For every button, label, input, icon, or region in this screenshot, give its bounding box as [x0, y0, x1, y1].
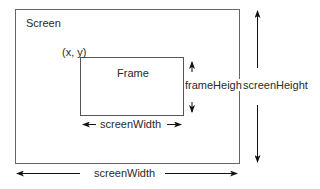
screen-label: Screen: [26, 17, 61, 29]
frame-origin-label: (x, y): [62, 46, 86, 58]
screen-height-label: screenHeight: [242, 79, 309, 91]
frame-width-label: screenWidth: [100, 118, 161, 130]
screen-width-label: screenWidth: [94, 167, 155, 179]
frame-height-label: frameHeight: [184, 79, 246, 91]
frame-label: Frame: [117, 67, 149, 79]
